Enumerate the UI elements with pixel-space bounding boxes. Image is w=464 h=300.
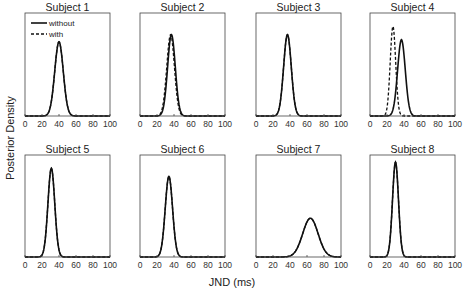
- panel-subject-4: Subject 4020406080100: [368, 1, 463, 129]
- x-tick-label: 60: [416, 260, 426, 270]
- x-tick-label: 20: [382, 260, 392, 270]
- x-tick-label: 0: [23, 119, 28, 129]
- x-tick-label: 0: [23, 260, 28, 270]
- panel-subject-3: Subject 3020406080100: [254, 1, 349, 129]
- x-tick-label: 100: [334, 119, 348, 129]
- x-tick-label: 100: [448, 119, 462, 129]
- panel-title: Subject 8: [391, 143, 435, 155]
- x-tick-label: 40: [169, 119, 179, 129]
- curve-with: [370, 26, 455, 116]
- panel-title: Subject 3: [277, 1, 321, 13]
- legend: withoutwith: [31, 19, 75, 39]
- curve-without: [256, 35, 341, 116]
- x-tick-label: 60: [302, 260, 312, 270]
- x-tick-label: 100: [218, 119, 232, 129]
- x-tick-label: 80: [433, 260, 443, 270]
- x-tick-label: 0: [368, 119, 373, 129]
- panel-title: Subject 1: [46, 1, 90, 13]
- x-axis-label: JND (ms): [0, 276, 464, 288]
- x-tick-label: 40: [399, 119, 409, 129]
- axes-box: [370, 13, 455, 116]
- panel-title: Subject 7: [277, 143, 321, 155]
- curve-with: [256, 218, 341, 257]
- panel-subject-1: Subject 1020406080100withoutwith: [23, 1, 118, 129]
- panel-subject-5: Subject 5020406080100: [23, 143, 118, 270]
- x-tick-label: 100: [448, 260, 462, 270]
- panel-title: Subject 2: [161, 1, 205, 13]
- curve-with: [140, 176, 225, 257]
- panel-title: Subject 5: [46, 143, 90, 155]
- panel-subject-2: Subject 2020406080100: [138, 1, 233, 129]
- legend-label-with: with: [48, 30, 63, 39]
- x-tick-label: 20: [37, 260, 47, 270]
- x-tick-label: 100: [103, 260, 117, 270]
- panel-title: Subject 4: [391, 1, 435, 13]
- axes-box: [370, 155, 455, 257]
- x-tick-label: 60: [71, 119, 81, 129]
- axes-box: [25, 13, 110, 116]
- legend-label-without: without: [48, 19, 75, 28]
- axes-box: [25, 155, 110, 257]
- x-tick-label: 20: [152, 119, 162, 129]
- x-tick-label: 40: [285, 119, 295, 129]
- panel-title: Subject 6: [161, 143, 205, 155]
- x-tick-label: 80: [203, 260, 213, 270]
- curve-with: [256, 35, 341, 116]
- x-tick-label: 20: [37, 119, 47, 129]
- curve-with: [370, 162, 455, 257]
- curve-without: [25, 168, 110, 257]
- axes-box: [140, 155, 225, 257]
- x-tick-label: 60: [416, 119, 426, 129]
- x-tick-label: 60: [71, 260, 81, 270]
- x-tick-label: 80: [319, 260, 329, 270]
- x-tick-label: 40: [54, 119, 64, 129]
- x-tick-label: 0: [138, 260, 143, 270]
- panel-subject-7: Subject 7020406080100: [254, 143, 349, 270]
- axes-box: [256, 155, 341, 257]
- chart-figure: Subject 1020406080100withoutwithSubject …: [0, 0, 464, 300]
- x-tick-label: 60: [186, 260, 196, 270]
- curve-without: [256, 218, 341, 257]
- x-tick-label: 20: [268, 119, 278, 129]
- panel-subject-6: Subject 6020406080100: [138, 143, 233, 270]
- axes-box: [256, 13, 341, 116]
- x-tick-label: 40: [54, 260, 64, 270]
- x-tick-label: 100: [334, 260, 348, 270]
- y-axis-label: Posterior Density: [4, 88, 16, 188]
- panel-subject-8: Subject 8020406080100: [368, 143, 463, 270]
- x-tick-label: 80: [203, 119, 213, 129]
- curve-without: [140, 35, 225, 116]
- x-tick-label: 0: [254, 260, 259, 270]
- curve-with: [25, 168, 110, 257]
- x-tick-label: 60: [302, 119, 312, 129]
- curve-with: [140, 35, 225, 116]
- x-tick-label: 0: [368, 260, 373, 270]
- axes-box: [140, 13, 225, 116]
- x-tick-label: 40: [169, 260, 179, 270]
- x-tick-label: 80: [433, 119, 443, 129]
- curve-without: [140, 176, 225, 257]
- curve-without: [370, 162, 455, 257]
- x-tick-label: 20: [152, 260, 162, 270]
- curve-without: [370, 40, 455, 116]
- curve-with: [25, 42, 110, 116]
- x-tick-label: 80: [88, 119, 98, 129]
- x-tick-label: 60: [186, 119, 196, 129]
- x-tick-label: 40: [285, 260, 295, 270]
- x-tick-label: 20: [268, 260, 278, 270]
- x-tick-label: 80: [88, 260, 98, 270]
- x-tick-label: 100: [218, 260, 232, 270]
- x-tick-label: 40: [399, 260, 409, 270]
- x-tick-label: 100: [103, 119, 117, 129]
- x-tick-label: 0: [138, 119, 143, 129]
- x-tick-label: 20: [382, 119, 392, 129]
- x-tick-label: 0: [254, 119, 259, 129]
- x-tick-label: 80: [319, 119, 329, 129]
